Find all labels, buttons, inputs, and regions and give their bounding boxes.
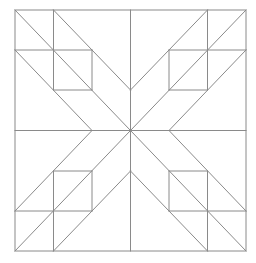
diagram-lines	[15, 10, 246, 251]
quilt-block-diagram	[0, 0, 256, 263]
